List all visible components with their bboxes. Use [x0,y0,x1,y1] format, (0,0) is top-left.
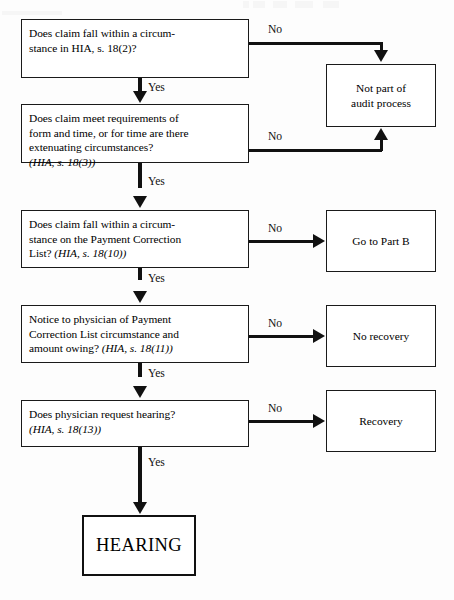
arrowhead-hearing [133,502,147,514]
edge-label-d4-no: No [268,318,282,330]
edge-label-d5-no: No [268,403,282,415]
arrowhead-d1-no [374,50,388,62]
decision-box-4-line-2: Correction List circumstance and [29,327,244,342]
arrowhead-d2-yes [133,196,147,208]
terminal-box-hearing-label: HEARING [96,535,182,556]
terminal-box-hearing: HEARING [82,515,196,576]
edge-label-d1-yes: Yes [148,82,165,94]
decision-box-3-line-2: stance on the Payment Correction [29,232,244,247]
edge-label-d5-yes: Yes [148,457,165,469]
outcome-box-no-recovery: No recovery [326,305,436,367]
arrowhead-d4-no [313,329,325,343]
decision-box-4-line-3-text: amount owing? [29,342,102,354]
decision-box-2-line-3: extenuating circumstances? [29,140,244,155]
arrowhead-d5-no [313,414,325,428]
arrowhead-d3-no [313,234,325,248]
decision-box-4-text: Notice to physician of Payment Correctio… [29,312,244,356]
page-scan-artifact-top [243,1,393,8]
outcome-box-recovery-text: Recovery [359,414,403,429]
decision-box-3-citation: (HIA, s. 18(10)) [54,247,126,259]
decision-box-5-text: Does physician request hearing? (HIA, s.… [29,407,244,436]
decision-box-3-line-3-text: List? [29,247,54,259]
decision-box-2-line-2: form and time, or for time are there [29,126,244,141]
decision-box-1-line-2: stance in HIA, s. 18(2)? [29,41,244,56]
edge-label-d3-yes: Yes [148,273,165,285]
arrowhead-d2-no [374,128,388,140]
decision-box-1: Does claim fall within a circum- stance … [21,19,249,78]
decision-box-5-line-1: Does physician request hearing? [29,407,244,422]
edge-label-d2-no: No [268,131,282,143]
outcome-1-line-1: Not part of [351,81,411,96]
decision-box-4-citation: (HIA, s. 18(11)) [102,342,173,354]
edge-d2-no-vertical [380,140,383,151]
decision-box-2-text: Does claim meet requirements of form and… [29,111,244,169]
edge-label-d4-yes: Yes [148,368,165,380]
outcome-1-line-2: audit process [351,96,411,111]
edge-d3-no-horizontal [249,240,317,243]
edge-d3-yes-vertical [138,268,141,280]
decision-box-4-line-3: amount owing? (HIA, s. 18(11)) [29,341,244,356]
outcome-box-no-recovery-text: No recovery [353,329,410,344]
edge-label-d1-no: No [268,24,282,36]
edge-label-d2-yes: Yes [148,176,165,188]
decision-box-2-line-1: Does claim meet requirements of [29,111,244,126]
edge-d5-yes-vertical [138,447,141,503]
outcome-box-go-to-part-b-text: Go to Part B [352,234,409,249]
edge-d2-yes-vertical [138,163,141,188]
outcome-box-recovery: Recovery [326,390,436,452]
edge-d1-no-horizontal [249,42,382,45]
decision-box-5-citation: (HIA, s. 18(13)) [29,422,244,437]
decision-box-3: Does claim fall within a circum- stance … [21,210,249,268]
outcome-box-not-part-of-audit-text: Not part of audit process [351,81,411,110]
page-scan-artifact-left [2,11,62,15]
edge-d2-no-horizontal [249,149,382,152]
decision-box-3-line-3: List? (HIA, s. 18(10)) [29,246,244,261]
edge-label-d3-no: No [268,223,282,235]
edge-d4-yes-vertical [138,363,141,377]
arrowhead-d1-yes [133,91,147,103]
outcome-box-not-part-of-audit: Not part of audit process [326,64,436,127]
decision-box-1-text: Does claim fall within a circum- stance … [29,26,244,55]
decision-box-4-line-1: Notice to physician of Payment [29,312,244,327]
edge-d4-no-horizontal [249,335,317,338]
arrowhead-d3-yes [133,291,147,303]
decision-box-5: Does physician request hearing? (HIA, s.… [21,400,249,447]
outcome-box-go-to-part-b: Go to Part B [326,210,436,272]
decision-box-3-line-1: Does claim fall within a circum- [29,217,244,232]
decision-box-3-text: Does claim fall within a circum- stance … [29,217,244,261]
flowchart-canvas: Does claim fall within a circum- stance … [0,0,454,600]
decision-box-4: Notice to physician of Payment Correctio… [21,305,249,363]
edge-d5-no-horizontal [249,420,317,423]
decision-box-2: Does claim meet requirements of form and… [21,104,249,163]
decision-box-2-citation: (HIA, s. 18(3)) [29,155,244,170]
decision-box-1-line-1: Does claim fall within a circum- [29,26,244,41]
arrowhead-d4-yes [133,386,147,398]
